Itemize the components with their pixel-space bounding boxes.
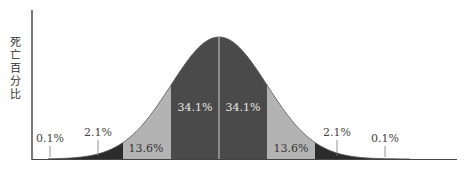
- distribution-bands: [48, 37, 410, 159]
- label-minus3-sigma: 2.1%: [84, 126, 112, 139]
- label-minus2-sigma: 13.6%: [129, 142, 164, 155]
- label-left-tail: 0.1%: [36, 132, 64, 145]
- label-plus3-sigma: 2.1%: [323, 126, 351, 139]
- label-plus2-sigma: 13.6%: [274, 142, 309, 155]
- band-2: [171, 37, 219, 159]
- label-minus1-sigma: 34.1%: [178, 101, 213, 114]
- band-3: [219, 37, 267, 159]
- label-right-tail: 0.1%: [371, 132, 399, 145]
- label-plus1-sigma: 34.1%: [226, 101, 261, 114]
- normal-distribution-chart: 34.1%34.1%13.6%13.6%2.1%2.1%0.1%0.1%: [0, 0, 467, 171]
